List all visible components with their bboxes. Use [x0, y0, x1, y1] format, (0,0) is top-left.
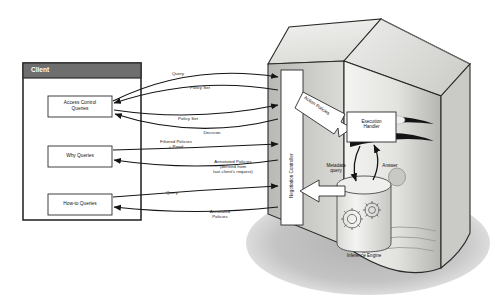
edge-label-policy-set-2: Policy Set: [166, 116, 210, 121]
why-queries-label: Why Queries: [48, 153, 112, 159]
edge-label-decision: Decision: [192, 130, 232, 135]
client-panel-title: Client: [31, 66, 49, 73]
negotiation-controller-label: Negotiation Controller: [289, 154, 294, 198]
edge-label-policy-set-1: Policy Set: [178, 85, 222, 90]
access-control-queries-label: Access Control Queries: [48, 100, 112, 111]
tower-face-left: [268, 61, 344, 245]
metadata-query-label: Metadata query: [318, 163, 354, 174]
negotiation-controller-panel: [281, 70, 303, 225]
how-to-queries-label: How-to Queries: [48, 201, 112, 207]
edge-label-query-1: Query: [158, 71, 198, 76]
answer-label: Answer: [375, 163, 405, 168]
tower-side-right: [441, 64, 470, 268]
edge-label-query-2: Query: [154, 190, 190, 195]
inference-engine-label: Inference Engine: [332, 253, 396, 258]
execution-handler-label: Execution Handler: [347, 119, 396, 130]
edge-label-annotated-policies: Annotated Policies: [196, 209, 244, 219]
edge-label-annotated-derived: Annotated Policies (derived from last cl…: [202, 159, 264, 174]
diagram-canvas: Client Access Control Queries Why Querie…: [0, 0, 495, 308]
edge-label-filtered-policies: Filtered Policies + Proof: [150, 139, 202, 149]
